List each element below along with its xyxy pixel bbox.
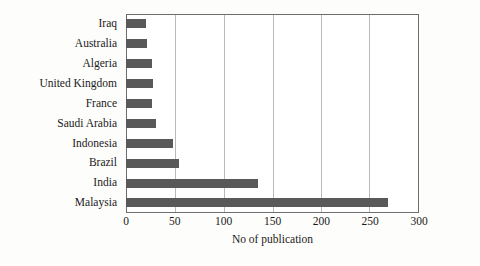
- bar-chart: IraqAustraliaAlgeriaUnited KingdomFrance…: [0, 0, 480, 266]
- y-axis-label: Saudi Arabia: [0, 113, 122, 133]
- bar-row: [126, 94, 419, 114]
- x-axis-tick-label: 50: [169, 215, 181, 227]
- x-axis-tick-label: 150: [264, 215, 281, 227]
- x-axis-tick-label: 300: [410, 215, 427, 227]
- bar: [126, 59, 152, 68]
- bar: [126, 79, 153, 88]
- bar-row: [126, 153, 419, 173]
- y-axis-label: Algeria: [0, 54, 122, 74]
- y-axis-label: United Kingdom: [0, 74, 122, 94]
- y-axis-label: Iraq: [0, 14, 122, 34]
- bar-row: [126, 14, 419, 34]
- x-axis-tick-label: 100: [215, 215, 232, 227]
- x-axis-title: No of publication: [126, 233, 419, 245]
- y-axis-label: India: [0, 173, 122, 193]
- x-axis-tick-label: 250: [362, 215, 379, 227]
- bar: [126, 198, 388, 207]
- bar: [126, 19, 146, 28]
- bar-row: [126, 193, 419, 213]
- bar-row: [126, 34, 419, 54]
- bars-layer: [126, 14, 419, 213]
- y-axis-label: Indonesia: [0, 133, 122, 153]
- bar-row: [126, 54, 419, 74]
- y-axis-label: France: [0, 94, 122, 114]
- y-axis-label: Malaysia: [0, 193, 122, 213]
- bar-row: [126, 173, 419, 193]
- x-axis-tick-label: 200: [313, 215, 330, 227]
- x-axis-ticks: 050100150200250300: [126, 215, 419, 231]
- bar-row: [126, 74, 419, 94]
- bar-row: [126, 113, 419, 133]
- bar: [126, 99, 152, 108]
- bar: [126, 39, 147, 48]
- y-axis-label: Brazil: [0, 153, 122, 173]
- bar: [126, 139, 173, 148]
- y-axis-label: Australia: [0, 34, 122, 54]
- bar: [126, 159, 179, 168]
- bar: [126, 119, 156, 128]
- bar-row: [126, 133, 419, 153]
- y-axis-labels: IraqAustraliaAlgeriaUnited KingdomFrance…: [0, 14, 122, 213]
- x-axis-tick-label: 0: [123, 215, 129, 227]
- bar: [126, 179, 258, 188]
